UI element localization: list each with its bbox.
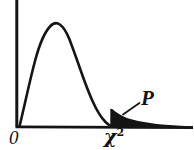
chi-square-figure: 0 χ2 P <box>0 0 193 150</box>
chi-exponent: 2 <box>117 126 125 139</box>
critical-value-label: χ2 <box>104 127 124 146</box>
distribution-plot <box>0 0 193 150</box>
shaded-tail-region <box>112 109 194 128</box>
density-curve <box>20 23 112 126</box>
origin-label: 0 <box>9 128 19 147</box>
tail-area-label: P <box>141 88 154 109</box>
chi-symbol: χ <box>104 125 117 147</box>
p-leader-line <box>123 103 140 115</box>
